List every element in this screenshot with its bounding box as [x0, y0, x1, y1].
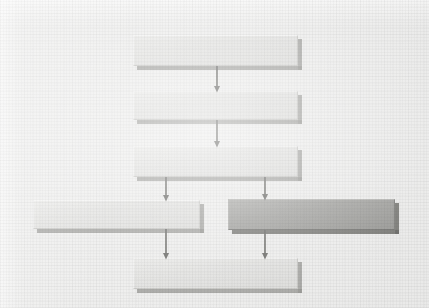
edge-layer [0, 0, 429, 308]
flowchart-page [0, 0, 429, 308]
edge-svg [0, 0, 429, 308]
